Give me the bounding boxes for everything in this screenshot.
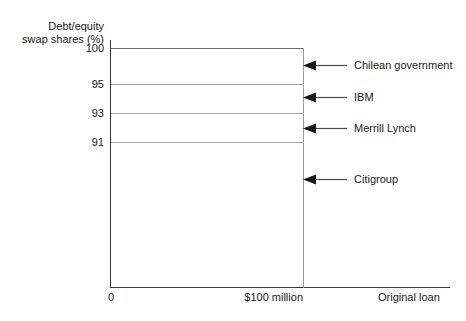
callout-chilean-government: Chilean government <box>303 58 452 72</box>
chart-figure: Debt/equity swap shares (%) 100 95 93 91… <box>0 0 466 321</box>
arrow-left-icon <box>303 60 347 71</box>
callout-label-ibm: IBM <box>354 92 374 103</box>
y-tick-label-91: 91 <box>92 137 104 148</box>
plot-right-boundary <box>303 48 304 288</box>
arrow-left-icon <box>303 123 347 134</box>
callout-ibm: IBM <box>303 90 374 104</box>
x-axis-line <box>110 287 450 288</box>
y-axis-line <box>110 40 111 288</box>
gridline-100 <box>111 48 303 49</box>
y-axis-title-line1: Debt/equity <box>48 20 104 32</box>
y-tick-label-100: 100 <box>86 43 104 54</box>
x-tick-label-zero: 0 <box>108 292 114 303</box>
arrow-left-icon <box>303 92 347 103</box>
x-axis-title: Original loan <box>378 292 440 303</box>
callout-label-chilean-government: Chilean government <box>354 60 452 71</box>
gridline-95 <box>111 84 303 85</box>
x-tick-label-hundred: $100 million <box>244 292 303 303</box>
gridline-93 <box>111 113 303 114</box>
arrow-left-icon <box>303 174 347 185</box>
callout-label-citigroup: Citigroup <box>354 174 398 185</box>
callout-citigroup: Citigroup <box>303 172 398 186</box>
y-tick-label-95: 95 <box>92 79 104 90</box>
gridline-91 <box>111 142 303 143</box>
callout-label-merrill-lynch: Merrill Lynch <box>354 123 416 134</box>
callout-merrill-lynch: Merrill Lynch <box>303 121 416 135</box>
y-tick-label-93: 93 <box>92 108 104 119</box>
